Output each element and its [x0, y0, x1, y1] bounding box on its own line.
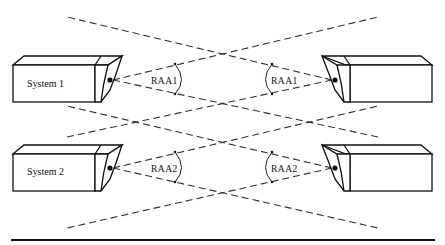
raa2-left-label: RAA2	[151, 164, 178, 174]
system2-right-device	[322, 145, 432, 191]
lens-icon	[107, 77, 112, 82]
system1-left-device: System 1	[13, 56, 122, 102]
raa2-left-angle: RAA2	[151, 151, 182, 184]
raa2-right-angle: RAA2	[266, 151, 298, 184]
lens-icon	[107, 165, 112, 170]
lens-icon	[332, 77, 337, 82]
system2-left-device: System 2	[13, 145, 122, 191]
sensor-coverage-diagram: System 1 System 2 RAA1	[0, 0, 445, 245]
raa1-left-label: RAA1	[151, 76, 178, 86]
raa1-right-angle: RAA1	[266, 63, 298, 96]
lens-icon	[332, 165, 337, 170]
raa1-right-label: RAA1	[271, 76, 298, 86]
raa2-right-label: RAA2	[271, 164, 298, 174]
system2-label: System 2	[27, 166, 64, 177]
system1-right-device	[322, 56, 432, 102]
raa1-left-angle: RAA1	[151, 63, 182, 96]
system1-label: System 1	[27, 78, 64, 89]
